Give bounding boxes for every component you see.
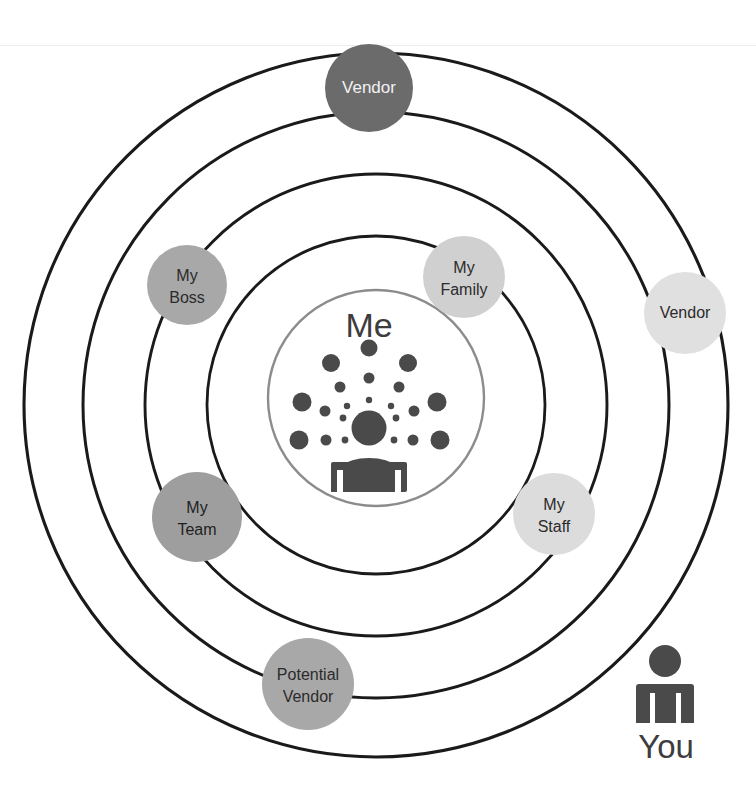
center-arm-gap-right	[395, 470, 401, 492]
node-vendor-top[interactable]: Vendor	[325, 44, 413, 132]
legend-torso	[636, 684, 694, 723]
center-head	[352, 411, 387, 446]
node-potential-vendor[interactable]: Potential Vendor	[262, 638, 354, 730]
ring-group	[24, 53, 728, 757]
center-person-icon	[290, 340, 450, 493]
node-label-line-1: My	[453, 259, 474, 276]
concentric-circles-diagram: Me Vendor My Boss My Family Vendor My	[0, 0, 756, 809]
node-my-team[interactable]: My Team	[152, 472, 242, 562]
node-label-line-2: Team	[177, 521, 216, 538]
node-label-line-1: Vendor	[342, 78, 396, 97]
legend-arm-gap-right	[676, 693, 681, 723]
node-circle[interactable]	[152, 472, 242, 562]
legend-arm-gap-left	[650, 693, 655, 723]
ring-2	[83, 112, 669, 698]
node-circle[interactable]	[147, 245, 227, 325]
node-circle[interactable]	[423, 236, 505, 318]
ring-3	[145, 174, 607, 636]
node-label-line-1: My	[186, 499, 207, 516]
legend-you: You	[636, 645, 694, 765]
legend-label: You	[638, 728, 694, 765]
node-label-line-2: Boss	[169, 289, 205, 306]
center-arm-gap-left	[337, 470, 343, 492]
node-my-family[interactable]: My Family	[423, 236, 505, 318]
node-label-line-2: Vendor	[283, 688, 334, 705]
node-label-line-2: Family	[440, 281, 487, 298]
center-label: Me	[345, 306, 392, 344]
node-label-line-1: Potential	[277, 666, 339, 683]
node-label-line-2: Staff	[538, 518, 571, 535]
ring-1-outermost	[24, 53, 728, 757]
node-circle[interactable]	[262, 638, 354, 730]
node-vendor-right[interactable]: Vendor	[644, 272, 726, 354]
legend-head	[649, 645, 681, 677]
person-icon	[636, 645, 694, 723]
node-label-line-1: My	[176, 267, 197, 284]
node-label-line-1: My	[543, 496, 564, 513]
node-label-line-1: Vendor	[660, 304, 711, 321]
diagram-canvas: Me Vendor My Boss My Family Vendor My	[0, 0, 756, 809]
node-my-boss[interactable]: My Boss	[147, 245, 227, 325]
node-my-staff[interactable]: My Staff	[513, 473, 595, 555]
node-circle[interactable]	[513, 473, 595, 555]
